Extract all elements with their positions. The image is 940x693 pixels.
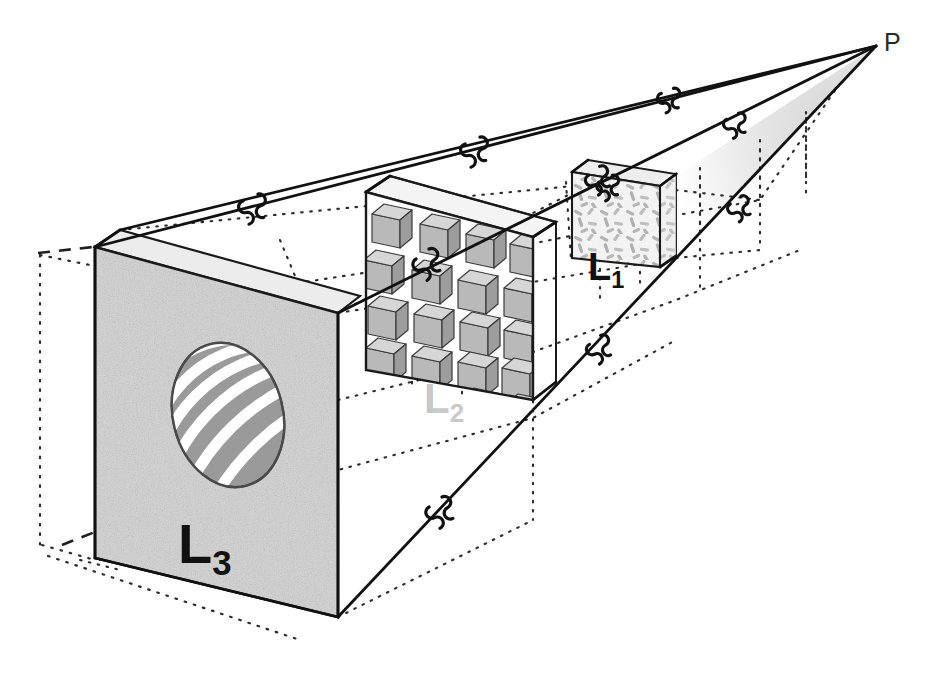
label-l2: L2 — [424, 378, 464, 426]
apex-label-text: P — [884, 28, 901, 56]
scale-panel-l1[interactable] — [565, 160, 685, 275]
label-l1-base: L — [588, 246, 611, 288]
frustum-diagram-svg — [0, 0, 940, 693]
label-l1-subscript: 1 — [611, 267, 624, 293]
label-l2-base: L — [424, 375, 450, 422]
label-l2-subscript: 2 — [450, 398, 464, 428]
label-l3-subscript: 3 — [212, 544, 231, 582]
apex-label: P — [884, 30, 901, 55]
label-l3-base: L — [178, 512, 212, 575]
label-l1: L1 — [588, 248, 624, 293]
label-l3: L3 — [178, 516, 232, 581]
diagram-canvas: P L1 L2 L3 — [0, 0, 940, 693]
